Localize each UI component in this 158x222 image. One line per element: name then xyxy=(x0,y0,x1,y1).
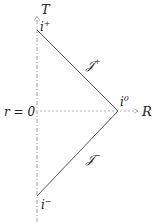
future-null-infinity-label: 𝒥+ xyxy=(85,57,101,72)
future-null-boundary xyxy=(37,30,118,111)
radial-axis-label: R xyxy=(141,104,152,119)
spatial-infinity-label: i0 xyxy=(120,94,129,109)
origin-label: r = 0 xyxy=(4,105,35,119)
past-null-boundary xyxy=(37,111,118,196)
past-null-infinity-label: 𝒥− xyxy=(85,151,101,166)
time-axis-label: T xyxy=(41,2,51,17)
past-timelike-infinity-label: i− xyxy=(41,197,52,212)
future-timelike-infinity-label: i+ xyxy=(40,19,51,34)
penrose-diagram: T R r = 0 i+ i− i0 𝒥+ 𝒥− xyxy=(0,0,158,222)
